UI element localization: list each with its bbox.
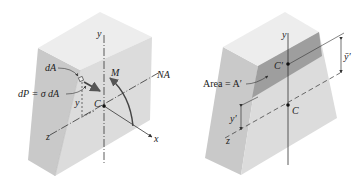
y-distance-label: y bbox=[74, 97, 80, 108]
dp-label: dP = σ dA bbox=[18, 88, 60, 99]
right-figure: y C′ Area = A′ C ȳ′ y′ z bbox=[203, 12, 351, 175]
centroid-prime-label: C′ bbox=[274, 60, 284, 71]
z-axis-label: z bbox=[225, 135, 230, 146]
centroid-label: C bbox=[94, 98, 101, 109]
da-label: dA bbox=[45, 62, 57, 73]
y-prime-label: y′ bbox=[229, 113, 237, 124]
diagram-canvas: y dA dP = σ dA y C M NA z x y C′ A bbox=[0, 0, 361, 186]
x-axis-label: x bbox=[153, 133, 159, 144]
centroid-label: C bbox=[292, 105, 299, 116]
centroid-c bbox=[102, 104, 106, 108]
left-figure: y dA dP = σ dA y C M NA z x bbox=[18, 12, 171, 176]
y-axis-label: y bbox=[281, 29, 287, 40]
da-element bbox=[78, 76, 83, 81]
y-axis-label: y bbox=[96, 28, 102, 39]
y-bar-prime-label: ȳ′ bbox=[343, 51, 351, 62]
area-label: Area = A′ bbox=[203, 78, 242, 89]
z-axis-label: z bbox=[45, 131, 50, 142]
centroid-c-prime bbox=[286, 62, 290, 66]
moment-label: M bbox=[110, 67, 120, 78]
centroid-c bbox=[286, 103, 290, 107]
na-label: NA bbox=[156, 69, 171, 80]
